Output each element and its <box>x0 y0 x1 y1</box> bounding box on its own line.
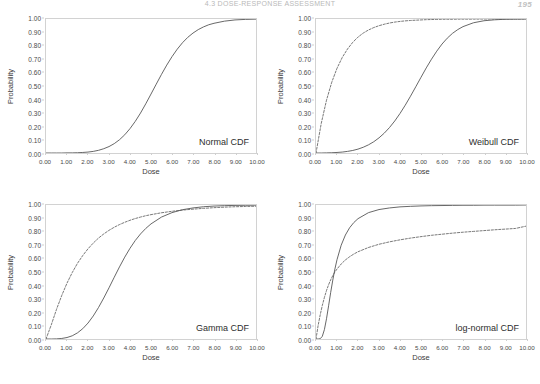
y-tick-mark <box>42 113 44 114</box>
y-tick-mark <box>42 285 44 286</box>
x-tick-mark <box>527 153 528 155</box>
x-tick-label: 5.00 <box>415 344 427 351</box>
y-tick-label: 0.80 <box>298 228 311 235</box>
y-tick-label: 0.50 <box>298 269 311 276</box>
plot-area: Weibull CDF <box>315 18 527 154</box>
x-tick-label: 5.00 <box>145 344 157 351</box>
running-head: 4.3 DOSE-RESPONSE ASSESSMENT 195 <box>0 0 540 10</box>
y-tick-label: 0.00 <box>298 151 311 158</box>
x-tick-label: 5.00 <box>415 158 427 165</box>
y-axis-ticks: 0.000.100.200.300.400.500.600.700.800.90… <box>284 198 314 346</box>
x-tick-label: 3.00 <box>373 158 385 165</box>
x-tick-mark <box>151 153 152 155</box>
y-tick-label: 0.00 <box>298 337 311 344</box>
y-tick-mark <box>312 18 314 19</box>
y-tick-mark <box>312 299 314 300</box>
x-tick-mark <box>257 153 258 155</box>
x-tick-label: 4.00 <box>124 344 136 351</box>
chart-panel-gamma-cdf: Probability 0.000.100.200.300.400.500.60… <box>0 198 270 384</box>
y-tick-label: 0.40 <box>298 282 311 289</box>
y-tick-label: 0.90 <box>28 214 41 221</box>
y-tick-mark <box>42 244 44 245</box>
chart-title: Normal CDF <box>199 137 249 147</box>
y-tick-mark <box>312 340 314 341</box>
chart-panel-normal-cdf: Probability 0.000.100.200.300.400.500.60… <box>0 12 270 198</box>
x-tick-mark <box>442 153 443 155</box>
y-tick-mark <box>42 31 44 32</box>
x-tick-mark <box>400 339 401 341</box>
y-tick-mark <box>312 244 314 245</box>
x-tick-mark <box>315 339 316 341</box>
x-tick-mark <box>45 153 46 155</box>
y-tick-mark <box>312 231 314 232</box>
x-tick-label: 6.00 <box>166 344 178 351</box>
x-tick-mark <box>315 153 316 155</box>
x-tick-label: 8.00 <box>479 158 491 165</box>
plot-svg <box>46 19 256 153</box>
y-tick-mark <box>312 285 314 286</box>
x-tick-label: 0.00 <box>39 158 51 165</box>
x-tick-label: 7.00 <box>187 344 199 351</box>
y-tick-mark <box>42 217 44 218</box>
x-tick-mark <box>236 153 237 155</box>
x-tick-mark <box>485 339 486 341</box>
y-tick-label: 0.10 <box>298 323 311 330</box>
x-tick-mark <box>130 339 131 341</box>
x-tick-mark <box>506 153 507 155</box>
x-tick-mark <box>421 339 422 341</box>
y-tick-label: 0.30 <box>298 296 311 303</box>
y-tick-label: 0.90 <box>298 214 311 221</box>
y-tick-label: 0.10 <box>28 323 41 330</box>
y-tick-mark <box>312 326 314 327</box>
y-tick-label: 0.20 <box>298 123 311 130</box>
y-tick-mark <box>42 312 44 313</box>
curve-solid <box>46 19 256 153</box>
x-tick-mark <box>485 153 486 155</box>
x-tick-label: 0.00 <box>309 344 321 351</box>
figure-page: 4.3 DOSE-RESPONSE ASSESSMENT 195 Probabi… <box>0 0 540 384</box>
x-tick-mark <box>379 339 380 341</box>
x-tick-mark <box>193 153 194 155</box>
y-axis-ticks: 0.000.100.200.300.400.500.600.700.800.90… <box>14 12 44 160</box>
y-tick-mark <box>312 86 314 87</box>
y-tick-mark <box>312 31 314 32</box>
y-tick-label: 0.20 <box>28 309 41 316</box>
y-axis-ticks: 0.000.100.200.300.400.500.600.700.800.90… <box>14 198 44 346</box>
x-tick-label: 9.00 <box>500 344 512 351</box>
x-tick-label: 7.00 <box>457 344 469 351</box>
x-tick-mark <box>66 339 67 341</box>
running-head-title: 4.3 DOSE-RESPONSE ASSESSMENT <box>0 0 540 7</box>
y-tick-label: 0.20 <box>28 123 41 130</box>
y-tick-mark <box>312 312 314 313</box>
y-tick-mark <box>42 204 44 205</box>
x-tick-mark <box>215 339 216 341</box>
x-tick-label: 10.00 <box>519 344 534 351</box>
x-tick-label: 6.00 <box>436 344 448 351</box>
plot-svg <box>46 205 256 339</box>
y-tick-mark <box>42 272 44 273</box>
chart-grid: Probability 0.000.100.200.300.400.500.60… <box>0 12 540 384</box>
x-tick-label: 1.00 <box>330 344 342 351</box>
x-tick-label: 10.00 <box>519 158 534 165</box>
x-tick-mark <box>527 339 528 341</box>
plot-svg <box>316 19 526 153</box>
y-tick-mark <box>312 258 314 259</box>
y-tick-label: 0.60 <box>298 69 311 76</box>
x-tick-mark <box>151 339 152 341</box>
x-tick-label: 3.00 <box>103 158 115 165</box>
y-tick-label: 0.70 <box>298 55 311 62</box>
y-tick-label: 0.70 <box>298 241 311 248</box>
x-tick-label: 10.00 <box>249 158 264 165</box>
x-tick-mark <box>130 153 131 155</box>
x-tick-label: 8.00 <box>209 158 221 165</box>
y-tick-mark <box>42 140 44 141</box>
y-tick-mark <box>42 126 44 127</box>
x-tick-label: 2.00 <box>351 344 363 351</box>
x-tick-mark <box>87 339 88 341</box>
x-tick-mark <box>172 153 173 155</box>
y-tick-label: 1.00 <box>298 15 311 22</box>
x-tick-label: 2.00 <box>81 344 93 351</box>
x-tick-label: 2.00 <box>351 158 363 165</box>
y-tick-mark <box>312 45 314 46</box>
y-tick-mark <box>42 326 44 327</box>
